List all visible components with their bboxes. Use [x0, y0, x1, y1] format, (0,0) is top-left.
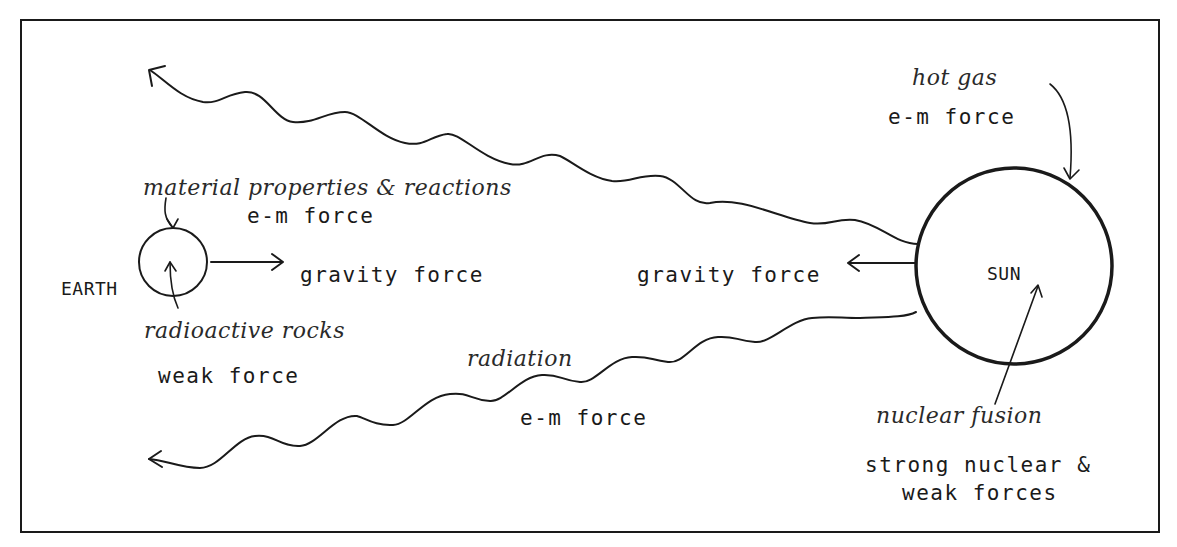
sun-fusion-force-line2: weak forces — [902, 483, 1058, 504]
earth-gravity-arrow — [211, 254, 283, 270]
sun-hot-gas-force-label: e-m force — [888, 107, 1015, 128]
sun-hot-gas-label: hot gas — [912, 67, 997, 89]
sun-label: SUN — [987, 265, 1021, 283]
radiation-label: radiation — [467, 348, 573, 370]
earth-label: EARTH — [61, 280, 118, 298]
earth-gravity-label: gravity force — [300, 265, 484, 286]
diagram-canvas: EARTH material properties & reactions e-… — [0, 0, 1177, 547]
earth-circle — [139, 228, 207, 296]
earth-material-label: material properties & reactions — [143, 177, 512, 199]
sun-gravity-label: gravity force — [637, 265, 821, 286]
sun-gravity-arrow — [848, 255, 916, 271]
earth-weak-force-label: weak force — [158, 366, 299, 387]
radiation-force-label: e-m force — [520, 408, 647, 429]
sun-fusion-force-line1: strong nuclear & — [865, 455, 1091, 476]
material-pointer-arrow — [165, 198, 178, 228]
sun-fusion-label: nuclear fusion — [876, 405, 1042, 427]
radioactive-pointer-arrow — [165, 262, 178, 308]
earth-radioactive-label: radioactive rocks — [144, 320, 345, 342]
earth-material-force-label: e-m force — [247, 206, 374, 227]
hot-gas-pointer-arrow — [1050, 84, 1079, 179]
fusion-pointer-arrow — [995, 285, 1042, 404]
